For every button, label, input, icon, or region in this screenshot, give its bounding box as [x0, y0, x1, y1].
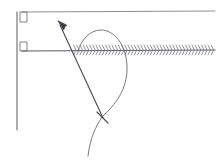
upper-bracket-tab	[20, 12, 27, 22]
hatched-surface-line	[22, 50, 215, 51]
arrow-tail-tick	[97, 112, 108, 123]
lower-bracket-tab	[20, 42, 27, 51]
figure-root: Technical line diagram Line drawing of a…	[0, 0, 219, 163]
top-edge-line	[22, 11, 215, 12]
force-arrow	[58, 21, 103, 118]
line-drawing-canvas	[0, 0, 219, 163]
